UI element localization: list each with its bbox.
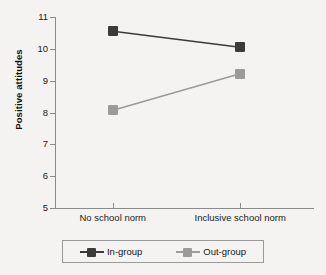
legend-label-in-group: In-group [107, 247, 142, 257]
y-tick-label: 11 [34, 12, 48, 22]
y-tick-label: 5 [34, 203, 48, 213]
series-lines [0, 0, 326, 275]
series-line-out-group [113, 74, 240, 111]
x-tick-label: Inclusive school norm [195, 213, 286, 223]
y-axis-line [55, 17, 56, 209]
legend-item-out-group[interactable]: Out-group [176, 247, 246, 257]
data-point-marker [235, 42, 245, 52]
y-tick [50, 17, 55, 18]
x-tick [113, 203, 114, 209]
legend-swatch-out-group [176, 247, 200, 257]
series-line-in-group [113, 31, 240, 47]
y-tick-label: 10 [34, 44, 48, 54]
y-tick [50, 81, 55, 82]
legend-square-marker-out-group [183, 248, 192, 257]
y-axis-title: Positive attitudes [13, 20, 24, 160]
y-tick-label: 9 [34, 76, 48, 86]
legend-square-marker-in-group [87, 248, 96, 257]
y-tick-label: 6 [34, 171, 48, 181]
y-tick [50, 176, 55, 177]
y-tick [50, 208, 55, 209]
legend-swatch-in-group [80, 247, 104, 257]
y-tick [50, 113, 55, 114]
interaction-line-chart: Positive attitudes 111098765 No school n… [0, 0, 326, 275]
data-point-marker [235, 69, 245, 79]
x-axis-line [55, 208, 314, 209]
x-tick [240, 203, 241, 209]
data-point-marker [108, 26, 118, 36]
y-tick [50, 144, 55, 145]
legend-item-in-group[interactable]: In-group [80, 247, 142, 257]
y-tick [50, 49, 55, 50]
y-tick-label: 7 [34, 139, 48, 149]
y-tick-label: 8 [34, 108, 48, 118]
data-point-marker [108, 105, 118, 115]
x-tick-label: No school norm [80, 213, 147, 223]
legend-label-out-group: Out-group [203, 247, 246, 257]
chart-legend: In-group Out-group [62, 240, 264, 263]
